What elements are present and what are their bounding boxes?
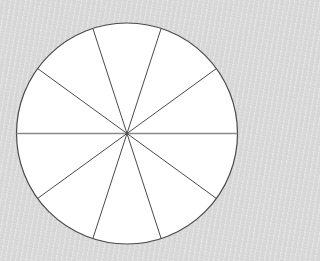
divided-circle-diagram — [0, 0, 248, 261]
